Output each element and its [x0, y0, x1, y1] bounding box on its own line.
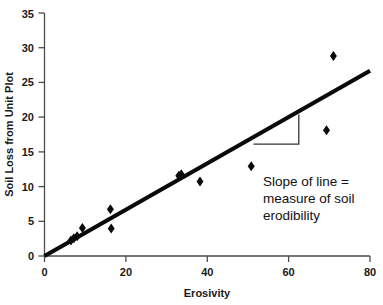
y-tick-label-20: 20: [22, 111, 34, 123]
data-point: [330, 51, 337, 61]
data-point: [107, 204, 114, 214]
data-point: [323, 125, 330, 135]
y-tick-label-5: 5: [28, 215, 34, 227]
slope-triangle: [254, 114, 299, 144]
y-tick-label-15: 15: [22, 146, 34, 158]
chart-figure: 0 5 10 15 20 25 30 35 0 20 40 60 80 Eros…: [0, 0, 383, 305]
y-axis-title: Soil Loss from Unit Plot: [3, 72, 15, 197]
x-axis-title: Erosivity: [184, 287, 231, 299]
x-tick-label-20: 20: [120, 266, 132, 278]
data-point: [108, 224, 115, 234]
y-tick-label-25: 25: [22, 76, 34, 88]
slope-annotation-line-2: measure of soil: [263, 191, 355, 206]
trend-line: [45, 71, 371, 256]
x-tick-label-80: 80: [364, 266, 376, 278]
x-tick-label-60: 60: [282, 266, 294, 278]
y-tick-label-0: 0: [28, 250, 34, 262]
scatter-plot-svg: 0 5 10 15 20 25 30 35 0 20 40 60 80 Eros…: [0, 0, 383, 305]
x-tick-label-0: 0: [41, 266, 47, 278]
data-point: [248, 161, 255, 171]
slope-annotation-line-1: Slope of line =: [263, 174, 349, 189]
y-tick-label-10: 10: [22, 181, 34, 193]
y-tick-label-30: 30: [22, 42, 34, 54]
data-point: [197, 177, 204, 187]
slope-annotation-line-3: erodibility: [263, 208, 320, 223]
y-tick-label-35: 35: [22, 8, 34, 20]
x-tick-label-40: 40: [201, 266, 213, 278]
